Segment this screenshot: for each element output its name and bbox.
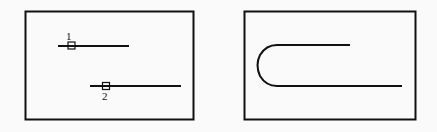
diagram-canvas: 1 2 xyxy=(0,0,437,132)
panel-after-frame xyxy=(245,12,416,120)
filleted-u-shape xyxy=(258,45,403,86)
panel-before: 1 2 xyxy=(26,12,194,120)
marker-label-1: 1 xyxy=(66,30,72,42)
panel-after xyxy=(245,12,416,120)
marker-label-2: 2 xyxy=(102,90,108,102)
panel-before-frame xyxy=(26,12,194,120)
